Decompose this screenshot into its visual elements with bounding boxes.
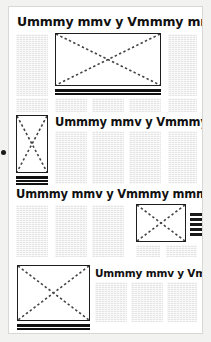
caption-rule <box>16 183 48 185</box>
text-column <box>136 245 160 257</box>
text-column <box>92 98 124 112</box>
caption-rule <box>17 324 90 327</box>
image-cross-icon <box>137 205 185 241</box>
caption-rule <box>17 328 90 330</box>
caption-rule <box>55 89 161 92</box>
text-column <box>168 34 197 96</box>
text-column <box>168 131 197 184</box>
text-column <box>16 205 48 257</box>
text-column <box>55 98 87 112</box>
text-column <box>166 245 197 257</box>
margin-ink-mark <box>1 150 6 155</box>
image-cross-icon <box>56 34 160 85</box>
text-column <box>129 98 161 112</box>
text-column <box>129 131 161 184</box>
text-column <box>55 131 87 184</box>
text-column <box>95 282 127 322</box>
headline-section-3: Ummmy mmv y Vmmmy mmmm mv mmy <box>16 189 203 201</box>
image-placeholder-section-4[interactable] <box>17 265 90 321</box>
image-cross-icon <box>18 266 89 320</box>
text-column <box>168 98 197 112</box>
headline-section-1: Ummmy mmv y Vmmmy mmmm <box>17 15 203 28</box>
headline-section-2: Ummmy mmv y Vmmmy mmm <box>55 117 203 129</box>
caption-rule <box>16 180 48 182</box>
image-placeholder-section-1[interactable] <box>55 33 161 86</box>
image-cross-icon <box>17 116 47 172</box>
text-column <box>92 131 124 184</box>
text-column <box>167 282 197 322</box>
text-column <box>16 98 48 112</box>
text-column <box>55 205 87 257</box>
text-column <box>131 282 163 322</box>
text-column <box>16 34 48 96</box>
caption-rule <box>16 176 48 179</box>
image-placeholder-section-3[interactable] <box>136 204 186 242</box>
page-sheet[interactable]: Ummmy mmv y Vmmmy mmmm Ummmy mmv y Vmmmy… <box>8 6 203 334</box>
bar-chart-block[interactable] <box>190 213 203 238</box>
image-placeholder-section-2[interactable] <box>16 115 48 173</box>
caption-rule <box>55 93 161 95</box>
text-column <box>92 205 124 257</box>
headline-section-4: Ummmy mmv y Vmmm mm <box>95 268 203 279</box>
